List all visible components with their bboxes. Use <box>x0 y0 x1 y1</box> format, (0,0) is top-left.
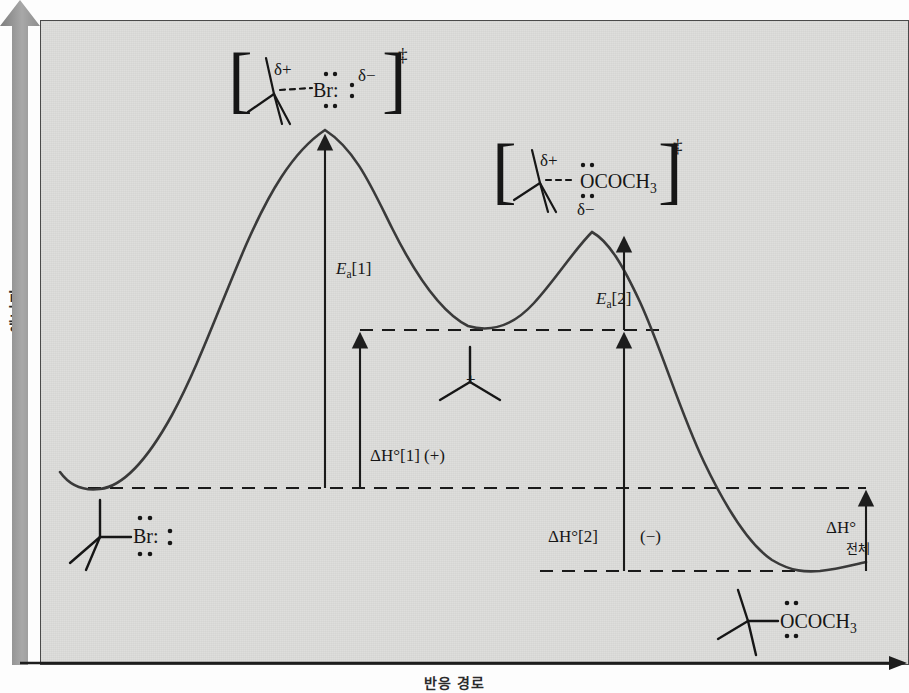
diagram-graphics <box>0 0 909 693</box>
product-structure <box>718 590 778 655</box>
ts2-delta-minus: δ− <box>577 200 595 220</box>
ts2-bracket-left: [ <box>492 133 517 207</box>
delta-h-overall-label: ΔH° <box>826 518 856 538</box>
reactant-structure <box>70 500 131 570</box>
ts1-leaving-group: Br: <box>313 79 339 102</box>
ea2-symbol: E <box>596 289 606 308</box>
ea1-index: [1] <box>352 259 372 278</box>
energy-curve <box>60 130 866 571</box>
ts2-incoming-subscript: 3 <box>650 181 657 196</box>
delta-h2-sign: (−) <box>640 527 661 547</box>
ea2-index: [2] <box>612 289 632 308</box>
product-formula-text: OCOCH <box>780 610 850 632</box>
ts2-incoming-group: OCOCH3 <box>580 170 657 197</box>
ea1-label: Ea[1] <box>336 259 371 281</box>
right-arrow-icon <box>20 656 907 670</box>
ts2-delta-plus: δ+ <box>540 151 558 171</box>
ts1-delta-plus: δ+ <box>274 60 292 80</box>
product-formula: OCOCH3 <box>780 610 857 637</box>
delta-h-overall-symbol: ΔH° <box>826 518 856 537</box>
ts1-bracket-left: [ <box>228 42 253 116</box>
ts2-dagger: ‡ <box>673 135 683 157</box>
reactant-formula: Br: <box>133 525 159 548</box>
delta-h-overall-subscript: 전체 <box>846 538 870 557</box>
ea2-label: Ea[2] <box>596 289 631 311</box>
intermediate-charge: + <box>466 370 476 390</box>
product-formula-subscript: 3 <box>850 621 857 636</box>
ts2-incoming-text: OCOCH <box>580 170 650 192</box>
up-arrow-icon <box>0 0 40 665</box>
delta-h1-label: ΔH°[1] (+) <box>370 446 445 466</box>
delta-h2-label: ΔH°[2] <box>548 527 598 547</box>
reaction-energy-diagram: 에너지 반응 경로 <box>0 0 909 693</box>
ea1-symbol: E <box>336 259 346 278</box>
ts1-delta-minus: δ− <box>358 66 376 86</box>
ts1-dagger: ‡ <box>398 44 408 66</box>
